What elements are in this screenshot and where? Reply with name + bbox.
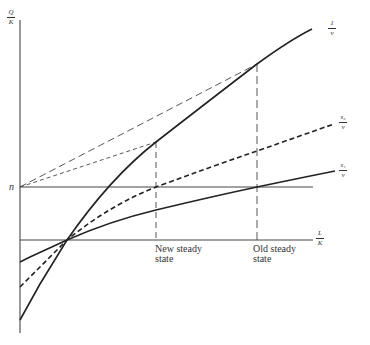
label-s2-over-v: s₂ v xyxy=(339,114,347,131)
x-label-num: L xyxy=(318,230,322,237)
label-den: v xyxy=(330,30,333,37)
y-label-num: Q xyxy=(8,9,13,16)
label-num: s₂ xyxy=(340,114,345,121)
label-den: v xyxy=(341,124,344,131)
old-steady-line2: state xyxy=(253,254,296,264)
old-steady-state-label: Old steady state xyxy=(253,244,296,264)
x-axis-label: L K xyxy=(316,230,324,247)
new-steady-state-label: New steady state xyxy=(155,244,202,264)
y-axis-label: Q K xyxy=(7,9,15,26)
label-num: s₁ xyxy=(340,162,345,169)
curve-one-over-v xyxy=(20,29,312,320)
label-den: v xyxy=(341,172,344,179)
ray-to-new xyxy=(20,142,156,187)
label-one-over-v: 1 v xyxy=(328,20,336,37)
n-label: n xyxy=(9,182,14,192)
ray-to-old xyxy=(20,64,257,187)
growth-diagram xyxy=(0,0,370,345)
x-label-den: K xyxy=(318,240,323,247)
new-steady-line2: state xyxy=(155,254,202,264)
label-s1-over-v: s₁ v xyxy=(339,162,347,179)
y-label-den: K xyxy=(9,19,14,26)
label-num: 1 xyxy=(330,20,334,27)
